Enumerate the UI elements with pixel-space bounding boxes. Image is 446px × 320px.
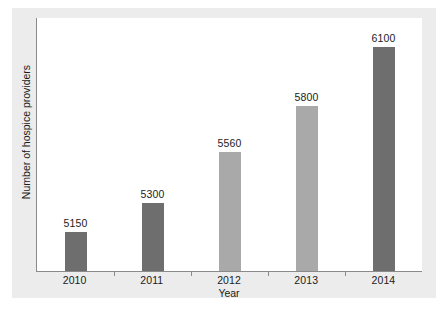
bar-2011[interactable] bbox=[142, 203, 164, 271]
x-tick-label-2013: 2013 bbox=[268, 274, 345, 286]
bar-value-label: 5560 bbox=[191, 137, 268, 149]
bar-group-2012: 5560 bbox=[191, 18, 268, 271]
y-axis-title: Number of hospice providers bbox=[20, 57, 32, 207]
bar-group-2013: 5800 bbox=[268, 18, 345, 271]
plot-area: 5150 5300 5560 5800 bbox=[36, 18, 422, 272]
bar-2010[interactable] bbox=[65, 232, 87, 271]
x-tick-label-2010: 2010 bbox=[36, 274, 113, 286]
bar-value-label: 5800 bbox=[268, 91, 345, 103]
x-axis-tick-labels: 2010 2011 2012 2013 2014 bbox=[36, 274, 422, 286]
x-tick-label-2012: 2012 bbox=[190, 274, 267, 286]
bar-group-2014: 6100 bbox=[345, 18, 422, 271]
bar-2013[interactable] bbox=[296, 106, 318, 271]
bar-2014[interactable] bbox=[373, 47, 395, 271]
chart-figure: 5150 5300 5560 5800 bbox=[0, 0, 446, 320]
x-tick-label-2014: 2014 bbox=[345, 274, 422, 286]
bar-2012[interactable] bbox=[219, 152, 241, 271]
bar-value-label: 6100 bbox=[345, 32, 422, 44]
bar-group-2010: 5150 bbox=[37, 18, 114, 271]
x-axis-title: Year bbox=[36, 287, 422, 299]
x-tick-label-2011: 2011 bbox=[113, 274, 190, 286]
bars-container: 5150 5300 5560 5800 bbox=[37, 18, 422, 271]
bar-group-2011: 5300 bbox=[114, 18, 191, 271]
bar-value-label: 5150 bbox=[37, 217, 114, 229]
bar-value-label: 5300 bbox=[114, 188, 191, 200]
chart-canvas: 5150 5300 5560 5800 bbox=[12, 8, 436, 298]
x-axis-line bbox=[36, 271, 422, 272]
